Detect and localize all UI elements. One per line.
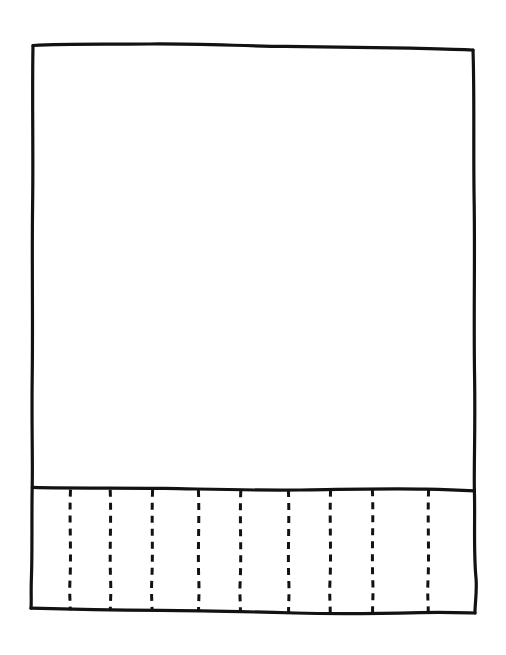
band-divider-3: [152, 490, 153, 611]
band-divider-2: [110, 490, 111, 611]
hand-drawn-figure: [0, 0, 506, 655]
bottom-band-dividers: [70, 489, 429, 613]
sketch-canvas: Hand-drawn Frame Diagram A hand-drawn re…: [0, 0, 506, 655]
band-divider-7: [330, 490, 331, 613]
band-divider-4: [198, 490, 199, 611]
frame-left-edge: [31, 46, 33, 609]
outer-rectangle: [31, 44, 476, 614]
band-divider-9: [428, 489, 429, 611]
frame-right-edge: [473, 50, 476, 613]
frame-top-edge: [33, 44, 473, 50]
band-divider-6: [288, 490, 289, 612]
band-divider-1: [70, 490, 71, 611]
band-divider-8: [372, 489, 373, 612]
horizontal-divider: [32, 487, 474, 490]
band-divider-5: [240, 490, 241, 611]
frame-bottom-edge: [31, 608, 475, 613]
